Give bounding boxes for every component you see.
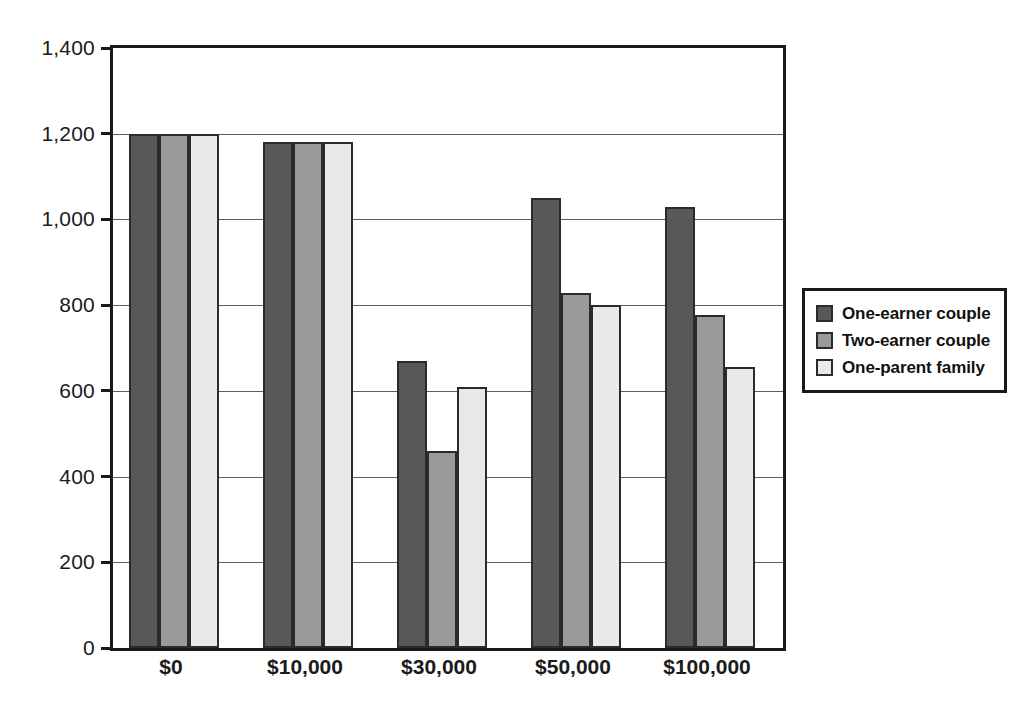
- bar: [397, 361, 427, 648]
- y-axis-tick-mark: [101, 304, 113, 307]
- legend-item: Two-earner couple: [816, 327, 991, 354]
- bar: [591, 305, 621, 648]
- y-axis-tick-mark: [101, 561, 113, 564]
- x-axis-label: $30,000: [401, 655, 477, 679]
- bars-layer: [113, 48, 783, 648]
- x-axis-label: $10,000: [267, 655, 343, 679]
- bar: [695, 315, 725, 648]
- bar: [427, 451, 457, 648]
- plot-area: 02004006008001,0001,2001,400: [110, 45, 786, 651]
- legend-label: One-parent family: [842, 358, 985, 378]
- legend-label: One-earner couple: [842, 304, 991, 324]
- x-axis-label: $0: [159, 655, 182, 679]
- legend-swatch: [816, 359, 833, 376]
- bar-group: [397, 48, 487, 648]
- legend-item: One-parent family: [816, 354, 991, 381]
- y-axis-tick-label: 200: [59, 550, 95, 574]
- x-axis-label: $50,000: [535, 655, 611, 679]
- legend-item: One-earner couple: [816, 300, 991, 327]
- y-axis-tick-mark: [101, 389, 113, 392]
- y-axis-tick-mark: [101, 647, 113, 650]
- bar-group: [129, 48, 219, 648]
- bar: [323, 142, 353, 648]
- y-axis-tick-label: 1,200: [41, 122, 95, 146]
- x-axis-labels: $0$10,000$30,000$50,000$100,000: [110, 655, 780, 695]
- legend-swatch: [816, 305, 833, 322]
- bar-group: [531, 48, 621, 648]
- bar: [159, 134, 189, 648]
- bar-group: [263, 48, 353, 648]
- y-axis-tick-mark: [101, 132, 113, 135]
- legend-label: Two-earner couple: [842, 331, 990, 351]
- y-axis-tick-label: 800: [59, 293, 95, 317]
- bar: [725, 367, 755, 648]
- legend-swatch: [816, 332, 833, 349]
- y-axis-tick-label: 600: [59, 379, 95, 403]
- bar: [189, 134, 219, 648]
- y-axis-tick-mark: [101, 218, 113, 221]
- bar-chart: 02004006008001,0001,2001,400 $0$10,000$3…: [0, 0, 1034, 717]
- bar: [531, 198, 561, 648]
- bar: [665, 207, 695, 648]
- y-axis-tick-label: 1,000: [41, 207, 95, 231]
- bar: [293, 142, 323, 648]
- y-axis-tick-label: 0: [83, 636, 95, 660]
- bar-group: [665, 48, 755, 648]
- y-axis-tick-label: 400: [59, 465, 95, 489]
- y-axis-tick-mark: [101, 47, 113, 50]
- y-axis-tick-mark: [101, 475, 113, 478]
- bar: [129, 134, 159, 648]
- x-axis-label: $100,000: [663, 655, 751, 679]
- chart-legend: One-earner coupleTwo-earner coupleOne-pa…: [802, 288, 1007, 393]
- bar: [457, 387, 487, 648]
- y-axis-tick-label: 1,400: [41, 36, 95, 60]
- bar: [561, 293, 591, 648]
- bar: [263, 142, 293, 648]
